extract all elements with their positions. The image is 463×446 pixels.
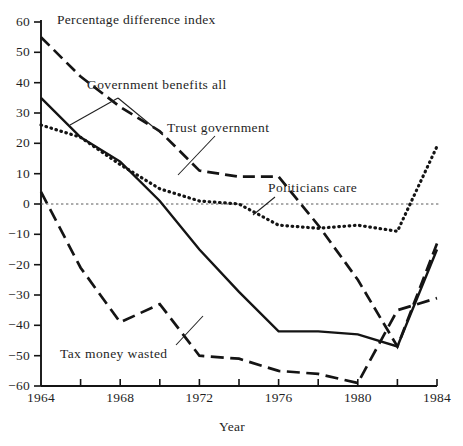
series-label-government-benefits-all: Government benefits all (87, 77, 227, 93)
y-tick-label: −40 (0, 317, 30, 333)
x-tick-label: 1984 (409, 390, 463, 406)
y-tick-label: 40 (0, 75, 30, 91)
y-tick-label: −20 (0, 257, 30, 273)
series-line-politicians-care (41, 125, 437, 231)
x-tick-label: 1980 (330, 390, 386, 406)
leader-line-government-benefits-all-2 (118, 98, 163, 135)
y-tick-label: 0 (0, 196, 30, 212)
y-tick-label: 30 (0, 105, 30, 121)
axes (41, 20, 437, 386)
chart-canvas (0, 0, 463, 446)
y-tick-label: −10 (0, 226, 30, 242)
y-tick-label: −50 (0, 348, 30, 364)
y-tick-marks (34, 22, 41, 386)
series-label-politicians-care: Politicians care (268, 180, 357, 196)
series-label-tax-money-wasted: Tax money wasted (60, 346, 167, 362)
y-tick-label: 60 (0, 14, 30, 30)
chart-title: Percentage difference index (57, 12, 216, 28)
series-label-trust-government: Trust government (167, 120, 269, 136)
leader-line-government-benefits-all (70, 98, 118, 125)
x-tick-label: 1964 (13, 390, 69, 406)
y-tick-label: −30 (0, 287, 30, 303)
x-tick-label: 1972 (171, 390, 227, 406)
x-axis-title: Year (219, 419, 245, 435)
leader-line-politicians-care (253, 197, 275, 215)
chart-figure: 60 50 40 30 20 10 0 −10 −20 −30 −40 −50 … (0, 0, 463, 446)
y-tick-label: 50 (0, 44, 30, 60)
y-tick-label: 20 (0, 135, 30, 151)
x-tick-label: 1968 (92, 390, 148, 406)
x-tick-marks (81, 379, 437, 386)
x-tick-label: 1976 (251, 390, 307, 406)
y-tick-label: 10 (0, 166, 30, 182)
